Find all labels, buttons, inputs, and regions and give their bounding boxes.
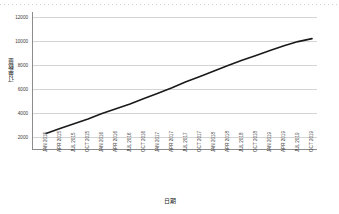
x-tick-label-18: JUL 2019 <box>295 133 300 153</box>
x-tick-label-9: APR 2017 <box>169 131 174 152</box>
x-tick-label-10: JUL 2017 <box>183 133 188 153</box>
x-tick-label-13: APR 2018 <box>225 131 230 152</box>
x-tick-label-14: JUL 2018 <box>239 133 244 153</box>
series-line-订单数量 <box>0 0 339 214</box>
x-tick-label-11: OCT 2017 <box>197 131 202 152</box>
x-tick-label-16: JAN 2019 <box>267 132 272 152</box>
x-tick-label-3: OCT 2015 <box>85 131 90 152</box>
line-chart: 订单数量 12000 10000 8000 6000 4000 2000 JAN… <box>0 0 339 214</box>
x-tick-label-15: OCT 2018 <box>253 131 258 152</box>
x-tick-label-7: OCT 2016 <box>141 131 146 152</box>
x-tick-label-2: JUL 2015 <box>71 133 76 153</box>
x-tick-label-19: OCT 2019 <box>309 131 314 152</box>
x-tick-label-12: JAN 2018 <box>211 132 216 152</box>
x-tick-label-17: APR 2019 <box>281 131 286 152</box>
chart-screenshot: 订单数量 12000 10000 8000 6000 4000 2000 JAN… <box>0 0 339 214</box>
x-axis-title: 日期 <box>0 196 339 205</box>
x-tick-label-1: APR 2015 <box>57 131 62 152</box>
x-tick-label-5: APR 2016 <box>113 131 118 152</box>
x-tick-label-0: JAN 2015 <box>43 132 48 152</box>
x-tick-label-8: JAN 2017 <box>155 132 160 152</box>
x-tick-label-6: JUL 2016 <box>127 133 132 153</box>
x-tick-label-4: JAN 2016 <box>99 132 104 152</box>
